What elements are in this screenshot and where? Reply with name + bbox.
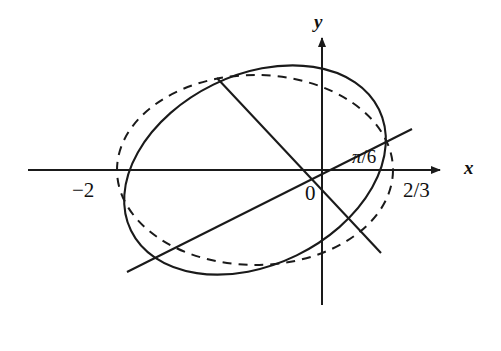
pi-symbol: π	[352, 146, 362, 167]
y-axis-label: y	[314, 12, 322, 31]
angle-denominator: 6	[367, 146, 377, 167]
figure-canvas	[0, 0, 501, 351]
math-figure: y x −2 0 2/3 π/6	[0, 0, 501, 351]
rotation-angle-label: π/6	[352, 147, 376, 166]
x-axis-label: x	[464, 158, 474, 177]
left-intercept-label: −2	[72, 180, 94, 201]
origin-label: 0	[305, 183, 316, 204]
right-intercept-label: 2/3	[403, 180, 430, 201]
